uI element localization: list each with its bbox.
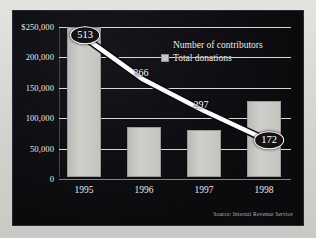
y-tick-label-0: 0 [50, 174, 54, 184]
x-tick-label-1995: 1995 [75, 185, 94, 195]
y-tick-label-250000: $250,000 [21, 22, 54, 32]
gridline-zero [59, 179, 291, 180]
data-label-1996: 366 [134, 68, 149, 78]
y-tick-label-150000: 150,000 [26, 83, 54, 93]
x-tick-label-1997: 1997 [195, 185, 214, 195]
legend-item-donations: Total donations [161, 52, 263, 65]
legend-item-contributors: Number of contributors [161, 39, 263, 52]
figure-page: $250,000 200,000 150,000 100,000 50,000 … [0, 0, 316, 238]
y-tick-label-200000: 200,000 [26, 52, 54, 62]
data-label-1998: 172 [254, 131, 284, 149]
y-tick-label-50000: 50,000 [30, 144, 54, 154]
source-note: Source: Internal Revenue Service [213, 211, 293, 217]
chart-legend: Number of contributors Total donations [161, 39, 263, 64]
legend-label-donations: Total donations [173, 52, 232, 65]
chart-panel: $250,000 200,000 150,000 100,000 50,000 … [12, 10, 304, 226]
legend-swatch-bar-icon [161, 54, 169, 62]
data-label-1995: 513 [70, 26, 100, 44]
x-tick-label-1998: 1998 [255, 185, 274, 195]
legend-swatch-line-icon [161, 41, 169, 49]
data-label-1997: 297 [194, 100, 209, 110]
legend-label-contributors: Number of contributors [173, 39, 263, 52]
x-tick-label-1996: 1996 [135, 185, 154, 195]
y-tick-label-100000: 100,000 [26, 113, 54, 123]
